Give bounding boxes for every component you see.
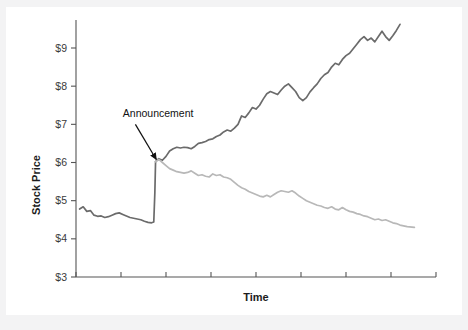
y-axis-tick-labels: $3$4$5$6$7$8$9: [55, 42, 67, 283]
y-axis-tick-label: $4: [55, 232, 67, 244]
y-axis-group: $3$4$5$6$7$8$9: [55, 20, 76, 283]
x-axis-group: [76, 272, 436, 277]
data-series-group: [80, 24, 415, 227]
annotation-group: Announcement: [123, 107, 194, 160]
y-axis-tick-label: $3: [55, 271, 67, 283]
stock-price-chart: $3$4$5$6$7$8$9 Stock Price Time Announce…: [0, 0, 468, 330]
announcement-arrow: [135, 124, 156, 159]
y-axis-tick-label: $8: [55, 80, 67, 92]
data-series-line: [80, 162, 156, 223]
x-axis-title: Time: [243, 291, 268, 303]
y-axis-tick-label: $6: [55, 156, 67, 168]
x-axis-ticks: [76, 272, 436, 277]
y-axis-ticks: [71, 48, 76, 277]
y-axis-tick-label: $7: [55, 118, 67, 130]
data-series-line: [156, 159, 415, 227]
y-axis-title: Stock Price: [30, 155, 42, 215]
y-axis-tick-label: $5: [55, 194, 67, 206]
y-axis-tick-label: $9: [55, 42, 67, 54]
data-series-line: [156, 24, 400, 161]
announcement-label: Announcement: [123, 107, 194, 119]
